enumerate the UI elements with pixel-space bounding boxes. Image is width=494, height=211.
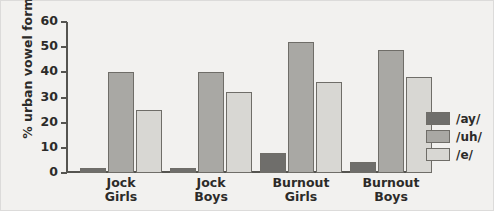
y-tick-mark xyxy=(61,46,67,48)
legend-swatch-ay-icon xyxy=(426,112,450,125)
bar-uh xyxy=(288,42,314,173)
bar-group xyxy=(80,22,162,173)
bar-group-bars xyxy=(350,22,432,173)
bar-e xyxy=(136,110,162,173)
y-tick-label: 40 xyxy=(30,65,58,78)
y-tick-mark xyxy=(61,97,67,99)
y-tick-label: 10 xyxy=(30,141,58,154)
y-tick-mark xyxy=(61,71,67,73)
x-group-label-line: Burnout xyxy=(336,176,446,190)
bar-group xyxy=(350,22,432,173)
y-tick-label: 50 xyxy=(30,40,58,53)
bar-group-bars xyxy=(260,22,342,173)
legend-swatch-uh-icon xyxy=(426,130,450,143)
bar-uh xyxy=(108,72,134,173)
legend-label-uh: /uh/ xyxy=(456,131,482,143)
bar-uh xyxy=(198,72,224,173)
y-tick-label: 30 xyxy=(30,91,58,104)
bar-group-bars xyxy=(80,22,162,173)
legend-swatch-e-icon xyxy=(426,148,450,161)
bar-group xyxy=(260,22,342,173)
legend-label-e: /e/ xyxy=(456,149,473,161)
y-tick-mark xyxy=(61,21,67,23)
y-tick-label: 20 xyxy=(30,116,58,129)
bar-e xyxy=(316,82,342,173)
x-group-label: BurnoutBoys xyxy=(336,176,446,203)
bar-ay xyxy=(80,168,106,173)
y-tick-label: 60 xyxy=(30,15,58,28)
legend-item-uh: /uh/ xyxy=(426,128,482,145)
plot-area: % urban vowel forms 0102030405060 JockGi… xyxy=(0,0,494,211)
bar-chart-figure: % urban vowel forms 0102030405060 JockGi… xyxy=(0,0,494,211)
bar-group xyxy=(170,22,252,173)
bar-ay xyxy=(170,168,196,173)
y-tick-mark xyxy=(61,122,67,124)
legend-item-e: /e/ xyxy=(426,146,482,163)
bar-ay xyxy=(350,162,376,173)
legend-item-ay: /ay/ xyxy=(426,110,482,127)
bar-e xyxy=(226,92,252,173)
legend-label-ay: /ay/ xyxy=(456,113,480,125)
legend: /ay/ /uh/ /e/ xyxy=(426,110,482,164)
x-group-label-line: Boys xyxy=(336,190,446,204)
y-tick-label: 0 xyxy=(30,166,58,179)
y-tick-mark xyxy=(61,147,67,149)
bar-uh xyxy=(378,50,404,173)
bar-group-bars xyxy=(170,22,252,173)
bar-ay xyxy=(260,153,286,173)
